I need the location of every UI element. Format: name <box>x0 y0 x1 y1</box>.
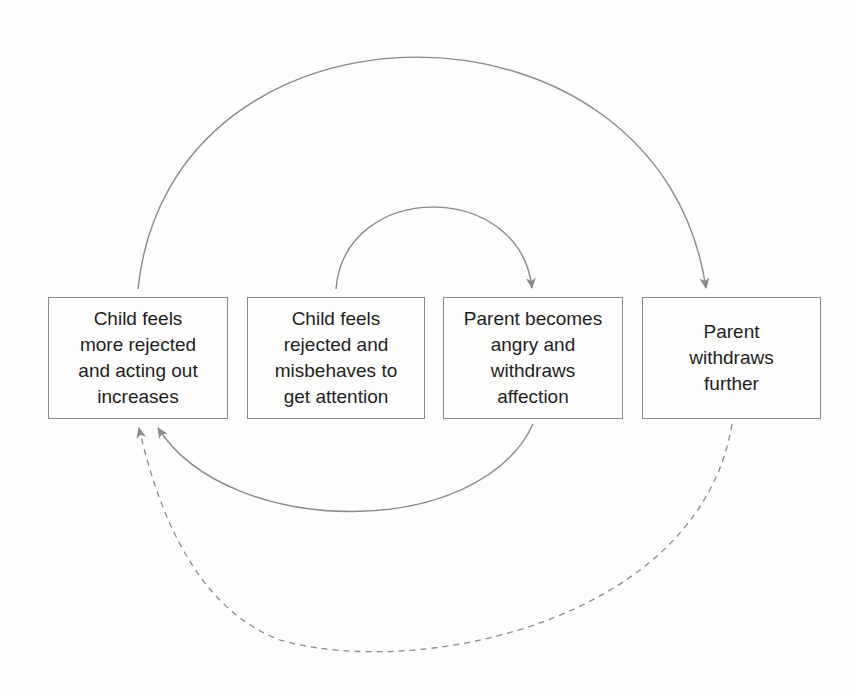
arrow-b2-to-b3 <box>336 207 532 289</box>
box-child-misbehaves: Child feels rejected and misbehaves to g… <box>247 297 425 419</box>
arrow-b3-to-b1 <box>158 424 533 512</box>
diagram-canvas: Child feels more rejected and acting out… <box>0 0 856 696</box>
box-parent-angry: Parent becomes angry and withdraws affec… <box>443 297 623 419</box>
arrow-b4-to-b1-dashed <box>139 424 732 652</box>
box-child-more-rejected: Child feels more rejected and acting out… <box>48 297 228 419</box>
box-parent-withdraws-further: Parent withdraws further <box>642 297 821 419</box>
arrow-b1-to-b4 <box>138 57 706 289</box>
